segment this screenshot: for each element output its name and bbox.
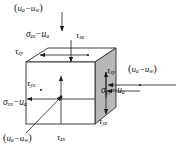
stress-cube-svg	[0, 0, 179, 151]
figure-canvas: (ua−uw) σzz−ua τxz τzy τyx σxx−ua (ua−uw…	[0, 0, 179, 151]
label-tau-yx: τyx	[27, 79, 35, 88]
label-tau-zy: τzy	[15, 47, 23, 56]
label-sigma-yy: σyy−ua	[101, 86, 125, 96]
label-suction-top: (ua−uw)	[14, 3, 43, 14]
arrow-tau-zy-origin	[87, 54, 89, 56]
label-tau-xy: τxy	[107, 66, 115, 75]
label-tau-yz: τyz	[99, 117, 107, 126]
label-tau-xz: τxz	[76, 31, 84, 40]
label-suction-right: (ua−uw)	[128, 64, 157, 75]
label-sigma-xx: σxx−ua	[3, 98, 27, 108]
suction-right-node	[139, 84, 141, 86]
tau-yx-node	[40, 89, 42, 91]
label-suction-bottom: (ua−uw)	[3, 133, 32, 144]
label-tau-zx: τzx	[57, 133, 65, 142]
cube-front-face	[26, 62, 95, 124]
label-sigma-zz: σzz−ua	[26, 30, 49, 40]
